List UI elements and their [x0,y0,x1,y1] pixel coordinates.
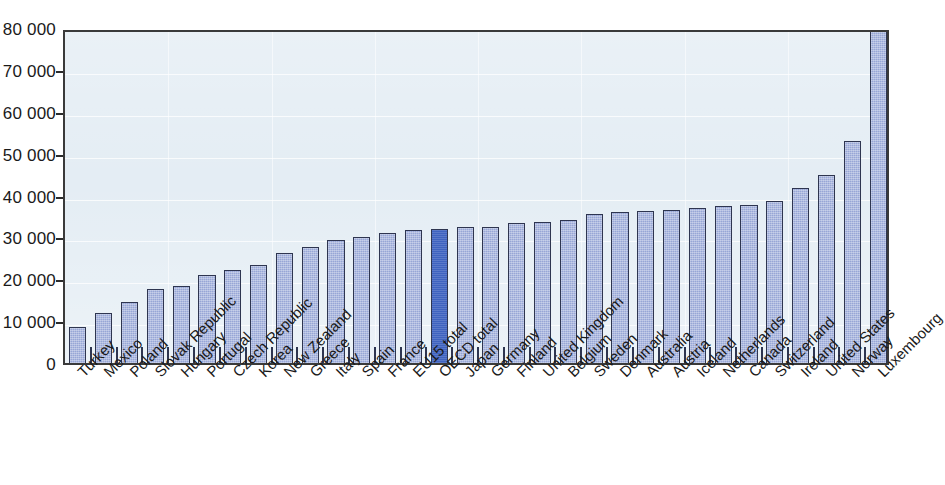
plot-area [63,30,889,365]
y-tick-label: 0 [46,355,56,375]
y-tick-label: 50 000 [3,146,56,166]
y-tick-label: 30 000 [3,229,56,249]
y-tick-label: 60 000 [3,104,56,124]
x-axis-category-labels: TurkeyMexicoPolandSlovak RepublicHungary… [63,368,889,485]
y-tick-label: 80 000 [3,20,56,40]
y-tick-label: 70 000 [3,62,56,82]
bar [844,141,861,363]
y-tick-label: 40 000 [3,188,56,208]
bars-layer [65,32,887,363]
bar [353,237,370,363]
y-tick-label: 20 000 [3,271,56,291]
y-axis: 010 00020 00030 00040 00050 00060 00070 … [0,0,56,485]
y-tick-label: 10 000 [3,313,56,333]
